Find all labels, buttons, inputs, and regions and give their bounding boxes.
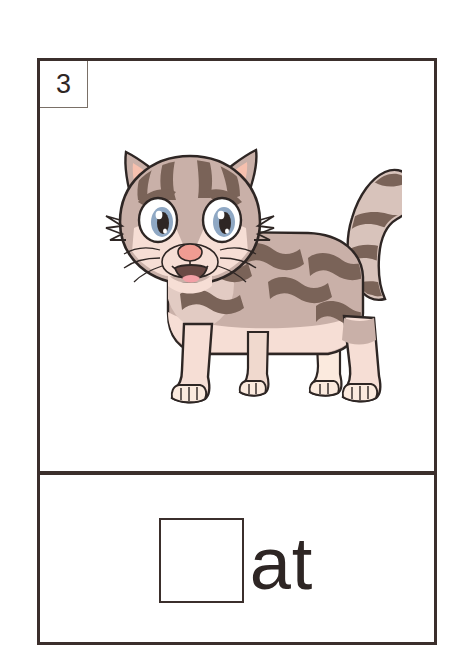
- cat-eye-left: [139, 198, 177, 242]
- word-row: at: [159, 518, 314, 603]
- word-suffix-text: at: [250, 532, 314, 596]
- blank-letter-box[interactable]: [159, 518, 244, 603]
- cartoon-tabby-cat-illustration: [72, 116, 402, 416]
- worksheet-card: 3 at: [37, 58, 437, 645]
- cat-eye-right: [203, 198, 241, 242]
- word-answer-pane: at: [40, 475, 434, 642]
- question-number-badge: 3: [40, 61, 88, 108]
- picture-pane: [40, 61, 434, 471]
- question-number: 3: [56, 71, 71, 98]
